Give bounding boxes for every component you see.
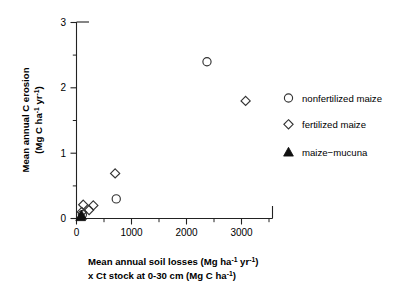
data-point-diamond-open	[241, 96, 250, 105]
x-axis-title-line2: x Ct stock at 0-30 cm (Mg C ha	[88, 270, 227, 281]
x-axis-title-line1: Mean annual soil losses (Mg ha	[88, 256, 232, 267]
legend-entry-fertilized-maize[interactable]: fertilized maize	[284, 119, 366, 130]
y-tick-label: 0	[60, 213, 66, 224]
data-point-diamond-open	[89, 201, 98, 210]
legend-entry-maize-mucuna[interactable]: maize−mucuna	[284, 147, 368, 158]
y-tick-label: 3	[60, 17, 66, 28]
x-tick-labels: 0 1000 2000 3000	[74, 227, 253, 238]
x-axis-title: Mean annual soil losses (Mg ha-1 yr-1) x…	[88, 256, 258, 281]
svg-text:Mean annual C erosion: Mean annual C erosion	[20, 67, 31, 172]
data-point-circle-open	[203, 58, 211, 66]
svg-text:Mean annual soil losses (Mg ha: Mean annual soil losses (Mg ha-1 yr-1)	[88, 256, 258, 267]
triangle-filled-icon	[284, 147, 294, 156]
legend-entry-nonfertilized-maize[interactable]: nonfertilized maize	[284, 93, 382, 104]
y-tick-labels: 0 1 2 3	[60, 17, 66, 224]
legend: nonfertilized maize fertilized maize mai…	[284, 93, 382, 158]
y-tick-label: 2	[60, 82, 66, 93]
y-axis-title: Mean annual C erosion (Mg C ha-1 yr-1)	[20, 67, 44, 172]
x-axis-ticks	[77, 219, 270, 225]
data-point-diamond-open	[111, 169, 120, 178]
x-tick-label: 2000	[175, 227, 198, 238]
legend-label: fertilized maize	[302, 119, 366, 130]
x-axis-title-mid: yr	[237, 256, 249, 267]
x-axis-title-line1-end: )	[255, 256, 258, 267]
x-axis-title-line2-end: )	[233, 270, 236, 281]
data-point-circle-open	[112, 195, 120, 203]
y-tick-label: 1	[60, 148, 66, 159]
scatter-plot: 0 1 2 3 0 1000 2000 3000 Mean annual C e…	[0, 0, 405, 293]
series-nonfertilized-maize	[78, 58, 211, 219]
x-tick-label: 1000	[120, 227, 143, 238]
diamond-open-icon	[284, 120, 293, 129]
figure-container: 0 1 2 3 0 1000 2000 3000 Mean annual C e…	[0, 0, 405, 293]
y-axis-ticks	[71, 23, 77, 219]
series-fertilized-maize	[77, 96, 250, 216]
legend-label: nonfertilized maize	[302, 93, 382, 104]
y-axis-title-end: )	[33, 86, 44, 89]
legend-label: maize−mucuna	[302, 147, 368, 158]
x-tick-label: 0	[74, 227, 80, 238]
y-axis-title-line2: (Mg C ha	[33, 113, 44, 154]
data-points-layer	[76, 58, 250, 221]
svg-text:x Ct stock at 0-30 cm (Mg C ha: x Ct stock at 0-30 cm (Mg C ha-1)	[88, 270, 236, 281]
x-tick-label: 3000	[230, 227, 253, 238]
y-axis-title-mid: yr	[33, 95, 44, 107]
y-axis-title-line1: Mean annual C erosion	[20, 67, 31, 172]
axes-spines	[76, 22, 273, 219]
svg-text:(Mg C ha-1 yr-1): (Mg C ha-1 yr-1)	[33, 86, 44, 154]
circle-open-icon	[284, 94, 292, 102]
